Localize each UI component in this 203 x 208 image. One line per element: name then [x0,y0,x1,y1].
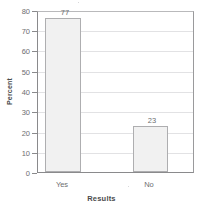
bar-yes[interactable] [45,18,81,172]
x-axis-title: Results [0,194,203,203]
y-tick-label-40: 40 [0,89,30,97]
scan-speck [78,2,79,3]
y-tick-label-60: 60 [0,48,30,56]
y-tick-label-80: 80 [0,8,30,16]
scan-speck [128,186,129,187]
y-tick-label-70: 70 [0,28,30,36]
bar-chart: Percent 80 70 60 50 40 30 20 10 0 77 23 … [0,0,203,208]
bar-value-yes: 77 [36,9,94,17]
bar-no[interactable] [133,126,168,172]
y-tick-label-50: 50 [0,69,30,77]
y-tick-label-10: 10 [0,150,30,158]
y-tick-mark-0 [32,173,37,174]
x-tick-label-yes: Yes [33,181,91,189]
y-tick-label-30: 30 [0,109,30,117]
x-tick-label-no: No [120,181,178,189]
y-tick-label-20: 20 [0,130,30,138]
bar-value-no: 23 [123,117,181,125]
y-tick-label-0: 0 [0,170,30,178]
plot-area [37,11,194,173]
